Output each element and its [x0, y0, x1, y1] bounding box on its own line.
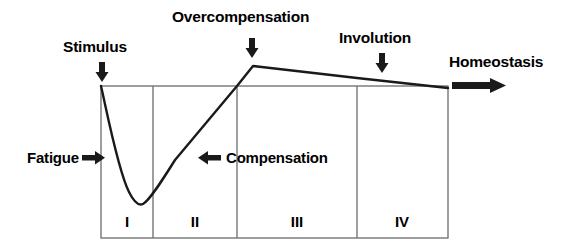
homeostasis-label: Homeostasis [449, 53, 543, 71]
stimulus-label: Stimulus [63, 38, 127, 56]
phase-numeral-2: II [191, 213, 199, 230]
phase-numeral-3: III [291, 213, 304, 230]
overcompensation-down-arrow-icon [246, 38, 259, 58]
phase-numeral-1: I [125, 213, 129, 230]
involution-down-arrow-icon [376, 53, 389, 73]
supercompensation-diagram: Stimulus Overcompensation Involution Hom… [0, 0, 574, 250]
involution-label: Involution [339, 29, 411, 47]
stimulus-down-arrow-icon [96, 62, 109, 82]
phase-numeral-4: IV [395, 213, 409, 230]
compensation-label: Compensation [226, 149, 328, 166]
fatigue-label: Fatigue [27, 149, 79, 166]
compensation-left-arrow-icon [198, 151, 221, 165]
overcompensation-label: Overcompensation [172, 8, 309, 26]
homeostasis-right-arrow-icon [452, 78, 506, 93]
